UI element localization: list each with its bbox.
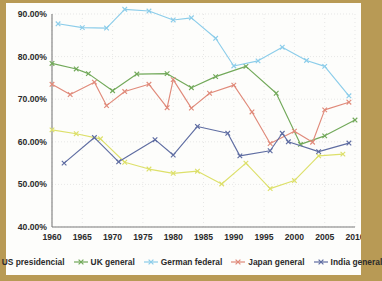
legend-item[interactable]: UK general xyxy=(74,257,135,267)
data-point-marker xyxy=(104,103,109,108)
data-point-marker xyxy=(244,161,249,166)
y-axis-tick-label: 50.00% xyxy=(18,179,48,189)
series-uk-general xyxy=(50,61,358,147)
data-point-marker xyxy=(116,160,121,165)
data-point-marker xyxy=(189,85,194,90)
x-axis-tick-label: 2000 xyxy=(285,232,304,242)
legend-item[interactable]: US presidencial xyxy=(0,257,65,267)
data-point-marker xyxy=(110,88,115,93)
series-line xyxy=(52,63,355,144)
y-axis-tick-label: 60.00% xyxy=(18,137,48,147)
legend-item[interactable]: India general xyxy=(314,257,382,267)
y-axis-tick-label: 70.00% xyxy=(18,94,48,104)
x-axis-tick-label: 1990 xyxy=(224,232,243,242)
legend-item[interactable]: Japan general xyxy=(231,257,304,267)
x-axis-tick-label: 1970 xyxy=(103,232,122,242)
data-point-marker xyxy=(250,110,255,115)
legend-label: US presidencial xyxy=(2,257,65,267)
series-india-general xyxy=(62,124,351,165)
data-point-marker xyxy=(268,141,273,146)
y-axis-tick-label: 80.00% xyxy=(18,52,48,62)
data-point-marker xyxy=(62,161,67,166)
chart-legend: US presidencialUK generalGerman federalJ… xyxy=(6,257,361,267)
data-point-marker xyxy=(92,80,97,85)
data-point-marker xyxy=(274,91,279,96)
x-axis-tick-label: 1985 xyxy=(194,232,213,242)
legend-swatch-icon xyxy=(231,258,245,266)
legend-item[interactable]: German federal xyxy=(144,257,222,267)
series-german-federal xyxy=(56,7,351,98)
x-axis-tick-label: 2005 xyxy=(315,232,334,242)
x-axis-tick-label: 1995 xyxy=(255,232,274,242)
y-axis-tick-label: 90.00% xyxy=(18,9,48,19)
legend-label: India general xyxy=(331,257,382,267)
legend-label: Japan general xyxy=(248,257,304,267)
x-axis-tick-label: 2010 xyxy=(345,232,361,242)
data-point-marker xyxy=(189,106,194,111)
x-axis-tick-label: 1975 xyxy=(133,232,152,242)
grid-lines xyxy=(52,14,355,227)
legend-swatch-icon xyxy=(144,258,158,266)
axis-lines xyxy=(52,14,355,227)
legend-label: UK general xyxy=(91,257,135,267)
y-axis-tick-label: 40.00% xyxy=(18,222,48,232)
chart-card: 40.00%50.00%60.00%70.00%80.00%90.00% 196… xyxy=(6,3,361,275)
line-chart: 40.00%50.00%60.00%70.00%80.00%90.00% 196… xyxy=(6,3,361,248)
data-point-marker xyxy=(68,92,73,97)
legend-swatch-icon xyxy=(314,258,328,266)
series-japan-general xyxy=(50,77,352,146)
data-point-marker xyxy=(347,93,352,98)
data-point-marker xyxy=(213,36,218,41)
data-point-marker xyxy=(280,131,285,136)
x-axis-tick-label: 1965 xyxy=(73,232,92,242)
data-point-marker xyxy=(153,137,158,142)
data-point-marker xyxy=(86,71,91,76)
data-point-marker xyxy=(280,45,285,50)
x-axis-tick-label: 1960 xyxy=(42,232,61,242)
y-axis-labels: 40.00%50.00%60.00%70.00%80.00%90.00% xyxy=(18,9,48,232)
series-line xyxy=(52,80,349,144)
legend-swatch-icon xyxy=(74,258,88,266)
data-point-marker xyxy=(171,153,176,158)
x-axis-labels: 1960196519701975198019851990199520002005… xyxy=(42,232,361,242)
legend-label: German federal xyxy=(161,257,222,267)
x-axis-tick-label: 1980 xyxy=(164,232,183,242)
data-point-marker xyxy=(219,182,224,187)
